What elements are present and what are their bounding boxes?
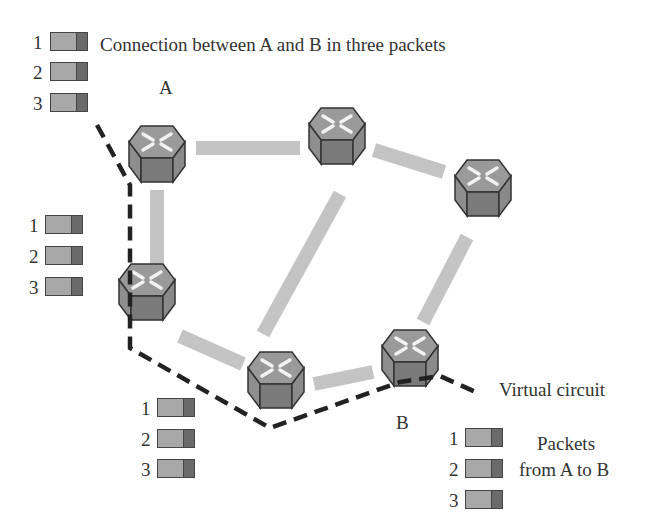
packet-icon: [465, 459, 503, 478]
link-tm-bottom: [263, 194, 340, 334]
packet-icon: [45, 215, 83, 234]
packet-number: 1: [29, 216, 39, 235]
router-left: [119, 264, 175, 320]
packet-icon: [50, 32, 88, 51]
packet-icon: [465, 490, 503, 509]
link-left-bottom: [180, 336, 243, 364]
packet-icon: [157, 429, 195, 448]
packet-number: 3: [29, 278, 39, 297]
packet-number: 3: [33, 94, 43, 113]
packet-number: 1: [33, 33, 43, 52]
packet-icon: [45, 277, 83, 296]
packet-number: 1: [141, 399, 151, 418]
packet-number: 2: [33, 63, 43, 82]
virtual-circuit-label: Virtual circuit: [499, 380, 605, 399]
router-top-left: [129, 126, 185, 182]
packet-number: 2: [29, 247, 39, 266]
link-bottom-b: [314, 372, 373, 384]
link-tm-right: [374, 150, 444, 172]
packets-label-line2: from A to B: [519, 460, 609, 479]
packet-icon: [50, 62, 88, 81]
router-bottom-middle: [248, 352, 304, 408]
packet-number: 3: [449, 491, 459, 510]
packets-label-line1: Packets: [537, 434, 595, 453]
node-a-label: A: [159, 78, 173, 97]
packet-number: 3: [141, 460, 151, 479]
packet-icon: [157, 398, 195, 417]
router-right: [455, 160, 511, 216]
packet-number: 1: [449, 429, 459, 448]
packet-icon: [45, 246, 83, 265]
packet-icon: [465, 428, 503, 447]
packet-icon: [157, 459, 195, 478]
node-b-label: B: [396, 413, 409, 432]
packet-icon: [50, 93, 88, 112]
router-top-middle: [309, 108, 365, 164]
link-right-b: [423, 237, 467, 322]
diagram-title: Connection between A and B in three pack…: [100, 35, 446, 54]
packet-number: 2: [141, 430, 151, 449]
packet-number: 2: [449, 460, 459, 479]
